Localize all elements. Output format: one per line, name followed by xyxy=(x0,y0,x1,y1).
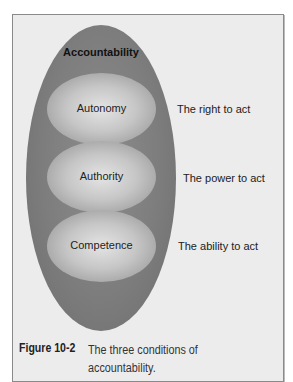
figure-caption: The three conditions of accountability. xyxy=(88,341,259,377)
figure-number: Figure 10-2 xyxy=(19,341,75,355)
caption-line-1: The three conditions of xyxy=(88,341,259,359)
authority-label: Authority xyxy=(47,170,156,182)
autonomy-label: Autonomy xyxy=(47,102,156,114)
competence-description: The ability to act xyxy=(178,240,258,252)
competence-label: Competence xyxy=(47,239,156,251)
caption-line-2: accountability. xyxy=(88,359,259,377)
autonomy-description: The right to act xyxy=(177,103,250,115)
authority-description: The power to act xyxy=(183,172,265,184)
accountability-label: Accountability xyxy=(26,46,176,58)
